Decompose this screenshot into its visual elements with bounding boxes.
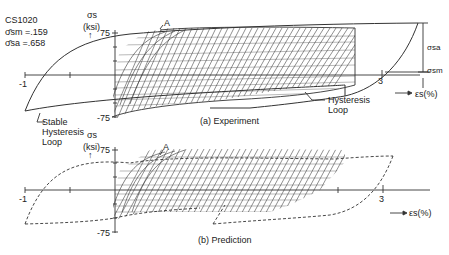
- y-axis-arrow-b: ↑: [88, 150, 93, 160]
- hysteresis-loop-label-1: Hysteresis: [328, 95, 370, 105]
- panel-b: [25, 147, 430, 233]
- x-tick-3-b: 3: [379, 194, 384, 204]
- y-tick-neg75-a: -75: [97, 113, 110, 123]
- y-tick-75-a: 75: [100, 28, 110, 38]
- x-axis-label-a: εs(%): [415, 89, 438, 99]
- point-a-label-b: A: [163, 142, 169, 152]
- y-tick-neg75-b: -75: [97, 228, 110, 238]
- specimen-id: CS1020: [5, 15, 38, 25]
- caption-b: (b) Prediction: [198, 235, 252, 245]
- sigma-sm-value: σ̄sm =.159: [5, 27, 48, 37]
- x-tick-neg1-a: -1: [19, 79, 27, 89]
- hysteresis-loop-label-2: Loop: [328, 105, 348, 115]
- stable-loop-label-3: Loop: [42, 137, 62, 147]
- sigma-sa-value: σ̄sa =.658: [5, 38, 45, 48]
- sigma-sm-label: σsm: [427, 66, 443, 76]
- sigma-sa-label: σsa: [427, 43, 440, 53]
- y-axis-symbol-a: σs: [87, 10, 97, 20]
- y-tick-75-b: 75: [100, 145, 110, 155]
- x-axis-label-b: εs(%): [409, 208, 432, 218]
- y-axis-arrow-a: ↑: [88, 30, 93, 40]
- stable-loop-label-2: Hysteresis: [42, 127, 84, 137]
- x-tick-neg1-b: -1: [19, 194, 27, 204]
- y-axis-symbol-b: σs: [87, 130, 97, 140]
- hysteresis-loops-b: [112, 149, 348, 220]
- caption-a: (a) Experiment: [200, 116, 259, 126]
- point-a-label: A: [164, 18, 170, 28]
- stable-loop-label-1: Stable: [42, 117, 68, 127]
- x-tick-3-a: 3: [378, 76, 383, 86]
- panel-a: [25, 23, 430, 122]
